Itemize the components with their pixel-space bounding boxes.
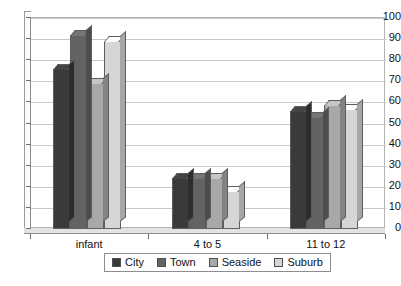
- chart-legend: CityTownSeasideSuburb: [104, 253, 331, 272]
- y-axis-tick: [26, 59, 31, 60]
- bar-side-face: [205, 168, 211, 222]
- legend-swatch-icon: [157, 258, 166, 267]
- legend-item: Seaside: [209, 256, 262, 268]
- x-axis-tick: [30, 234, 31, 239]
- gridline: [31, 18, 386, 19]
- y-axis-tick: [26, 207, 31, 208]
- y-axis-tick-label: 50: [375, 117, 401, 128]
- bar-side-face: [357, 99, 363, 222]
- bar-side-face: [222, 168, 228, 222]
- plot-area: [30, 17, 385, 228]
- x-axis-category-label: infant: [30, 238, 148, 250]
- y-axis-tick: [26, 123, 31, 124]
- legend-label: Town: [170, 256, 196, 268]
- legend-label: Seaside: [222, 256, 262, 268]
- bar-side-face: [239, 181, 245, 222]
- y-axis-tick-label: 70: [375, 74, 401, 85]
- legend-label: Suburb: [287, 256, 322, 268]
- legend-item: City: [112, 256, 144, 268]
- x-axis-category-label: 11 to 12: [267, 238, 385, 250]
- y-axis-tick: [26, 165, 31, 166]
- y-axis-tick-label: 80: [375, 53, 401, 64]
- y-axis-tick-label: 40: [375, 138, 401, 149]
- legend-swatch-icon: [274, 258, 283, 267]
- y-axis-tick-label: 30: [375, 159, 401, 170]
- y-axis-tick-label: 20: [375, 180, 401, 191]
- bar: [290, 111, 307, 229]
- x-axis-category-label: 4 to 5: [148, 238, 266, 250]
- bar-side-face: [340, 94, 346, 222]
- bar-side-face: [306, 101, 312, 222]
- y-axis-tick: [26, 186, 31, 187]
- y-axis-tick-label: 10: [375, 201, 401, 212]
- bar-side-face: [69, 59, 75, 222]
- bar-side-face: [86, 25, 92, 222]
- y-axis-tick-label: 100: [375, 11, 401, 22]
- bar-side-face: [120, 31, 126, 222]
- legend-item: Town: [157, 256, 196, 268]
- y-axis-tick: [26, 228, 31, 229]
- y-axis-tick-label: 0: [375, 222, 401, 233]
- y-axis-tick: [26, 38, 31, 39]
- legend-swatch-icon: [112, 258, 121, 267]
- legend-label: City: [125, 256, 144, 268]
- bar-side-face: [323, 107, 329, 222]
- y-axis-tick: [26, 101, 31, 102]
- y-axis-tick-label: 90: [375, 32, 401, 43]
- legend-swatch-icon: [209, 258, 218, 267]
- bar-side-face: [188, 168, 194, 222]
- bar: [172, 178, 189, 229]
- y-axis-tick-label: 60: [375, 95, 401, 106]
- y-axis-tick: [26, 17, 31, 18]
- bar-chart: 0102030405060708090100 infant4 to 511 to…: [0, 0, 401, 286]
- x-axis-tick: [385, 234, 386, 239]
- y-axis-tick: [26, 144, 31, 145]
- y-axis-tick: [26, 80, 31, 81]
- bar: [53, 69, 70, 229]
- legend-item: Suburb: [274, 256, 322, 268]
- bar-side-face: [103, 73, 109, 222]
